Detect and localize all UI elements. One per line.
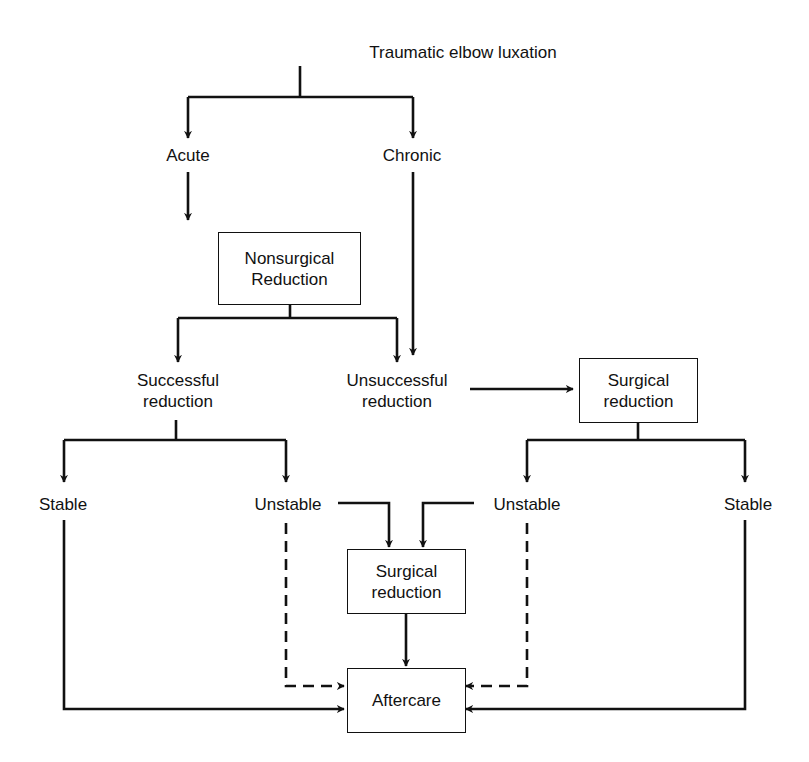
- node-surgical-reduction-center: Surgical reduction: [347, 549, 466, 614]
- arrow-stable-right-to-aftercare: [466, 520, 745, 709]
- successful-line2: reduction: [137, 391, 219, 412]
- dashed-unstable-right-to-aftercare: [466, 523, 527, 686]
- node-chronic: Chronic: [383, 145, 442, 166]
- node-unstable-right: Unstable: [493, 494, 560, 515]
- nonsurgical-line2: Reduction: [251, 269, 328, 290]
- surgical-right-line2: reduction: [604, 391, 674, 412]
- node-stable-left: Stable: [39, 494, 87, 515]
- node-root: Traumatic elbow luxation: [369, 42, 556, 63]
- successful-line1: Successful: [137, 370, 219, 391]
- surgical-right-line1: Surgical: [608, 370, 669, 391]
- flowchart: Traumatic elbow luxation Acute Chronic N…: [0, 0, 809, 762]
- arrow-unstable-right-to-surgical: [423, 503, 474, 547]
- dashed-unstable-left-to-aftercare: [286, 523, 344, 686]
- surgical-center-line1: Surgical: [376, 561, 437, 582]
- node-aftercare: Aftercare: [347, 668, 466, 733]
- nonsurgical-line1: Nonsurgical: [245, 248, 335, 269]
- node-successful-reduction: Successful reduction: [137, 370, 219, 412]
- arrow-unstable-left-to-surgical: [338, 503, 389, 547]
- node-nonsurgical-reduction: Nonsurgical Reduction: [218, 232, 361, 305]
- node-stable-right: Stable: [724, 494, 772, 515]
- node-acute: Acute: [166, 145, 209, 166]
- node-surgical-reduction-right: Surgical reduction: [579, 358, 698, 423]
- aftercare-label: Aftercare: [372, 690, 441, 711]
- node-unstable-left: Unstable: [254, 494, 321, 515]
- node-unsuccessful-reduction: Unsuccessful reduction: [346, 370, 447, 412]
- unsuccessful-line1: Unsuccessful: [346, 370, 447, 391]
- surgical-center-line2: reduction: [372, 582, 442, 603]
- arrow-stable-left-to-aftercare: [64, 520, 344, 709]
- unsuccessful-line2: reduction: [346, 391, 447, 412]
